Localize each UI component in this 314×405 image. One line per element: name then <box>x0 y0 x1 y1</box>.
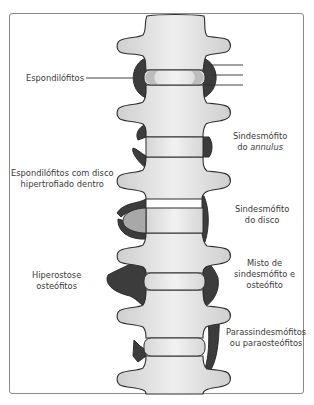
vertebra-1 <box>117 15 230 71</box>
label-espondilofitos-disco-line2: hipertrofiado dentro <box>11 179 114 190</box>
label-sindesmofito-annulus: Sindesmófito do annulus <box>233 131 287 153</box>
label-sindesmofito-annulus-line1: Sindesmófito <box>233 131 287 142</box>
label-misto-line3: osteófito <box>234 280 295 291</box>
label-misto: Misto de sindesmófito e osteófito <box>234 258 295 291</box>
label-misto-line1: Misto de <box>234 258 295 269</box>
disc-4 <box>144 273 205 290</box>
label-espondilofitos-disco: Espondilófitos com disco hipertrofiado d… <box>11 168 114 190</box>
disc-3 <box>146 208 203 233</box>
label-espondilofitos: Espondilófitos <box>26 73 84 84</box>
vertebra-2 <box>117 85 230 137</box>
label-parassindesmofitos-line2: ou paraosteófitos <box>226 338 306 349</box>
label-parassindesmofitos: Parassindesmófitos ou paraosteófitos <box>226 327 306 349</box>
label-hiperostose-line2: osteófitos <box>32 281 81 292</box>
label-sindesmofito-annulus-line2: do annulus <box>233 142 287 153</box>
label-sindesmofito-disco-line1: Sindesmófito <box>235 204 289 215</box>
label-espondilofitos-disco-line1: Espondilófitos com disco <box>11 168 114 179</box>
sindesmofito-annulus-left-lower <box>133 148 146 168</box>
label-hiperostose: Hiperostose osteófitos <box>32 270 81 292</box>
disc-2 <box>146 137 203 157</box>
label-annulus-italic: annulus <box>250 142 283 152</box>
label-misto-line2: sindesmófito e <box>234 269 295 280</box>
label-annulus-prefix: do <box>237 142 250 152</box>
label-sindesmofito-disco-line2: do disco <box>235 215 289 226</box>
disc-5 <box>144 338 205 356</box>
vertebra-3 <box>117 157 230 199</box>
label-sindesmofito-disco: Sindesmófito do disco <box>235 204 289 226</box>
label-parassindesmofitos-line1: Parassindesmófitos <box>226 327 306 338</box>
label-hiperostose-line1: Hiperostose <box>32 270 81 281</box>
label-espondilofitos-text: Espondilófitos <box>26 73 84 83</box>
